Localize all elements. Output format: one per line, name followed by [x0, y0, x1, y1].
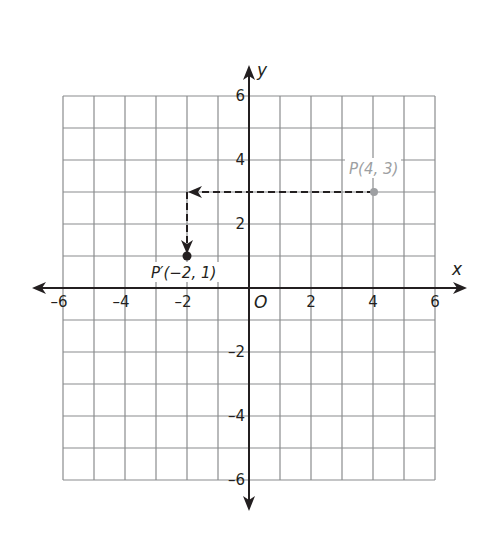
y-tick-label: 2 [235, 215, 245, 233]
x-tick-label: –6 [50, 293, 67, 311]
point-p-prime [183, 252, 192, 261]
y-tick-label: 6 [235, 87, 245, 105]
y-tick-label: –6 [228, 471, 245, 489]
x-tick-label: –4 [112, 293, 129, 311]
x-tick-label: 4 [368, 293, 378, 311]
x-axis-label: x [451, 259, 463, 279]
y-tick-label: 4 [235, 151, 245, 169]
coordinate-plane: x y O –6–4–2246 642–2–4–6 P(4, 3) P′(−2,… [0, 0, 496, 553]
y-tick-label: –4 [228, 407, 245, 425]
x-tick-label: –2 [174, 293, 191, 311]
y-axis-label: y [256, 60, 268, 80]
x-tick-label: 6 [430, 293, 440, 311]
origin-label: O [254, 292, 267, 312]
point-p [370, 188, 378, 196]
translation-path [181, 186, 374, 254]
y-tick-label: –2 [228, 343, 245, 361]
x-tick-label: 2 [306, 293, 316, 311]
point-p-label: P(4, 3) [349, 160, 398, 178]
point-p-prime-label: P′(−2, 1) [151, 264, 216, 282]
x-tick-labels: –6–4–2246 [50, 293, 439, 311]
